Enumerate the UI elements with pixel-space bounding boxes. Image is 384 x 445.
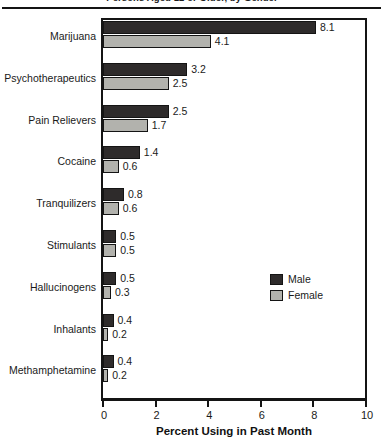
bar-female: 0.6 — [103, 202, 119, 215]
category-label-cocaine: Cocaine — [0, 155, 96, 167]
bar-male: 0.4 — [103, 314, 114, 327]
bar-female: 2.5 — [103, 77, 169, 90]
bar-group: Marijuana8.14.1 — [0, 20, 384, 61]
bar-value-label: 0.6 — [119, 159, 138, 173]
bar-rect-male — [103, 63, 187, 76]
bar-value-label: 0.6 — [119, 201, 138, 215]
bar-value-label: 0.4 — [114, 313, 133, 327]
bar-rect-male — [103, 105, 169, 118]
chart-legend: MaleFemale — [270, 272, 360, 304]
bar-value-label: 1.4 — [140, 145, 159, 159]
bar-group: Pain Relievers2.51.7 — [0, 104, 384, 145]
bar-male: 3.2 — [103, 63, 187, 76]
x-tick-label: 8 — [302, 408, 326, 422]
x-tick-label: 10 — [355, 408, 379, 422]
bar-rect-female — [103, 286, 111, 299]
chart-title: Persons Aged 12 or Older, by Gender — [0, 0, 384, 3]
bar-value-label: 0.5 — [116, 243, 135, 257]
bar-rect-female — [103, 202, 119, 215]
x-tick-mark — [155, 401, 157, 407]
bar-value-label: 0.2 — [108, 327, 127, 341]
category-label-inhalants: Inhalants — [0, 323, 96, 335]
legend-swatch-female — [270, 290, 283, 301]
bar-rect-male — [103, 272, 116, 285]
x-tick-label: 0 — [92, 408, 116, 422]
bar-value-label: 0.8 — [124, 187, 143, 201]
x-tick-mark — [260, 401, 262, 407]
bar-male: 8.1 — [103, 21, 316, 34]
x-tick-mark — [207, 401, 209, 407]
category-label-methamphetamine: Methamphetamine — [0, 364, 96, 376]
bar-value-label: 0.5 — [116, 271, 135, 285]
x-tick-label: 2 — [145, 408, 169, 422]
legend-label-male: Male — [288, 272, 311, 287]
bar-male: 0.5 — [103, 230, 116, 243]
bar-group: Psychotherapeutics3.22.5 — [0, 62, 384, 103]
category-label-pain-relievers: Pain Relievers — [0, 114, 96, 126]
x-tick-mark — [312, 401, 314, 407]
legend-label-female: Female — [288, 288, 323, 303]
bar-female: 1.7 — [103, 119, 148, 132]
category-label-tranquilizers: Tranquilizers — [0, 197, 96, 209]
bar-value-label: 2.5 — [169, 104, 188, 118]
x-tick-mark — [365, 401, 367, 407]
legend-item: Male — [270, 272, 360, 288]
bar-male: 1.4 — [103, 146, 140, 159]
title-divider-rule — [2, 7, 381, 9]
bar-group: Methamphetamine0.40.2 — [0, 354, 384, 395]
x-tick-label: 4 — [197, 408, 221, 422]
bar-rect-male — [103, 21, 316, 34]
bar-female: 0.6 — [103, 160, 119, 173]
bar-male: 2.5 — [103, 105, 169, 118]
bar-male: 0.4 — [103, 355, 114, 368]
x-tick-label: 6 — [250, 408, 274, 422]
bar-rect-male — [103, 230, 116, 243]
legend-swatch-male — [270, 274, 283, 285]
bar-female: 0.2 — [103, 328, 108, 341]
category-label-psychotherapeutics: Psychotherapeutics — [0, 72, 96, 84]
bar-group: Stimulants0.50.5 — [0, 229, 384, 270]
legend-item: Female — [270, 288, 360, 304]
bar-rect-male — [103, 355, 114, 368]
bar-female: 0.2 — [103, 369, 108, 382]
bar-rect-female — [103, 35, 211, 48]
bar-rect-male — [103, 314, 114, 327]
category-label-marijuana: Marijuana — [0, 30, 96, 42]
bar-male: 0.5 — [103, 272, 116, 285]
bar-value-label: 2.5 — [169, 76, 188, 90]
bar-rect-female — [103, 77, 169, 90]
bar-value-label: 0.2 — [108, 368, 127, 382]
bar-rect-female — [103, 119, 148, 132]
bar-rect-male — [103, 188, 124, 201]
bar-female: 0.5 — [103, 244, 116, 257]
x-axis-title: Percent Using in Past Month — [101, 425, 367, 437]
bar-rect-male — [103, 146, 140, 159]
bar-value-label: 4.1 — [211, 34, 230, 48]
bar-group: Cocaine1.40.6 — [0, 145, 384, 186]
bar-rect-female — [103, 244, 116, 257]
bar-value-label: 0.3 — [111, 285, 130, 299]
bar-value-label: 8.1 — [316, 20, 335, 34]
bar-female: 0.3 — [103, 286, 111, 299]
bar-rect-female — [103, 160, 119, 173]
bar-group: Tranquilizers0.80.6 — [0, 187, 384, 228]
bar-group: Inhalants0.40.2 — [0, 313, 384, 354]
category-label-hallucinogens: Hallucinogens — [0, 281, 96, 293]
category-label-stimulants: Stimulants — [0, 239, 96, 251]
bar-female: 4.1 — [103, 35, 211, 48]
bar-value-label: 0.4 — [114, 354, 133, 368]
bar-male: 0.8 — [103, 188, 124, 201]
bar-value-label: 1.7 — [148, 118, 167, 132]
x-tick-mark — [102, 401, 104, 407]
bar-value-label: 3.2 — [187, 62, 206, 76]
x-axis-line — [101, 398, 367, 401]
bar-value-label: 0.5 — [116, 229, 135, 243]
